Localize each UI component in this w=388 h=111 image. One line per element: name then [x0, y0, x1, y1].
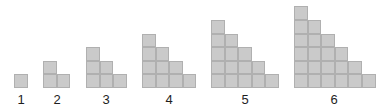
square-cell [86, 61, 100, 75]
figure-label-3: 3 [102, 93, 109, 106]
square-cell [169, 61, 183, 75]
square-cell [294, 47, 308, 61]
square-cell [238, 74, 252, 88]
square-cell [348, 74, 362, 88]
square-cell [100, 61, 114, 75]
square-cell [211, 20, 225, 34]
square-cell [362, 74, 376, 88]
square-cell [294, 20, 308, 34]
square-cell [142, 47, 156, 61]
square-cell [225, 74, 239, 88]
figure-label-1: 1 [17, 93, 24, 106]
figure-label-6: 6 [330, 93, 337, 106]
square-cell [308, 47, 322, 61]
square-cell [100, 74, 114, 88]
square-cell [335, 61, 349, 75]
square-cell [321, 61, 335, 75]
square-cell [86, 74, 100, 88]
square-cell [225, 47, 239, 61]
square-cell [142, 74, 156, 88]
square-cell [321, 74, 335, 88]
square-cell [252, 61, 266, 75]
square-cell [308, 61, 322, 75]
square-cell [225, 61, 239, 75]
square-cell [43, 74, 57, 88]
figure-label-4: 4 [165, 93, 172, 106]
figure-label-2: 2 [53, 93, 60, 106]
square-cell [156, 61, 170, 75]
square-cell [335, 47, 349, 61]
square-cell [211, 61, 225, 75]
square-cell [238, 61, 252, 75]
square-cell [308, 74, 322, 88]
square-cell [294, 34, 308, 48]
square-cell [142, 61, 156, 75]
square-cell [211, 47, 225, 61]
square-cell [57, 74, 71, 88]
square-cell [265, 74, 279, 88]
square-cell [294, 61, 308, 75]
square-cell [211, 34, 225, 48]
square-cell [113, 74, 127, 88]
square-cell [183, 74, 197, 88]
square-cell [86, 47, 100, 61]
square-cell [294, 74, 308, 88]
square-cell [321, 34, 335, 48]
figure-label-5: 5 [241, 93, 248, 106]
square-cell [308, 34, 322, 48]
square-cell [211, 74, 225, 88]
square-cell [252, 74, 266, 88]
square-cell [156, 47, 170, 61]
square-cell [156, 74, 170, 88]
square-cell [225, 34, 239, 48]
square-cell [43, 61, 57, 75]
square-cell [142, 34, 156, 48]
square-cell [348, 61, 362, 75]
square-cell [238, 47, 252, 61]
square-cell [169, 74, 183, 88]
square-cell [294, 6, 308, 20]
square-cell [335, 74, 349, 88]
square-cell [308, 20, 322, 34]
square-cell [321, 47, 335, 61]
square-cell [14, 74, 28, 88]
